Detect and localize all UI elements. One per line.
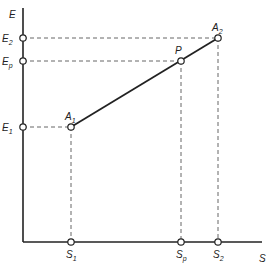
point-P <box>178 58 184 64</box>
projection-dashes <box>23 38 218 242</box>
y-axis-label: E <box>9 9 16 20</box>
labels: ESA1PA2E2EpE1S1SpS2 <box>2 9 266 264</box>
segment-line <box>71 38 218 127</box>
x-tick-marker <box>215 239 221 245</box>
y-tick-label: E1 <box>2 122 13 135</box>
point-label-A2: A2 <box>211 22 223 35</box>
x-tick-marker <box>68 239 74 245</box>
point-label-P: P <box>175 45 182 56</box>
x-tick-label: S1 <box>66 249 77 262</box>
energy-entropy-diagram: ESA1PA2E2EpE1S1SpS2 <box>0 0 270 266</box>
x-tick-label: S2 <box>213 249 224 262</box>
y-tick-marker <box>20 124 26 130</box>
line-segment-a1-a2 <box>71 38 218 127</box>
y-tick-label: Ep <box>2 56 13 70</box>
x-axis-label: S <box>259 253 266 264</box>
y-tick-label: E2 <box>2 33 13 46</box>
point-A2 <box>215 35 221 41</box>
y-tick-marker <box>20 35 26 41</box>
y-tick-marker <box>20 58 26 64</box>
axes <box>23 8 262 242</box>
point-markers <box>20 35 221 245</box>
x-tick-label: Sp <box>176 249 187 263</box>
point-label-A1: A1 <box>64 111 76 124</box>
point-A1 <box>68 124 74 130</box>
x-tick-marker <box>178 239 184 245</box>
